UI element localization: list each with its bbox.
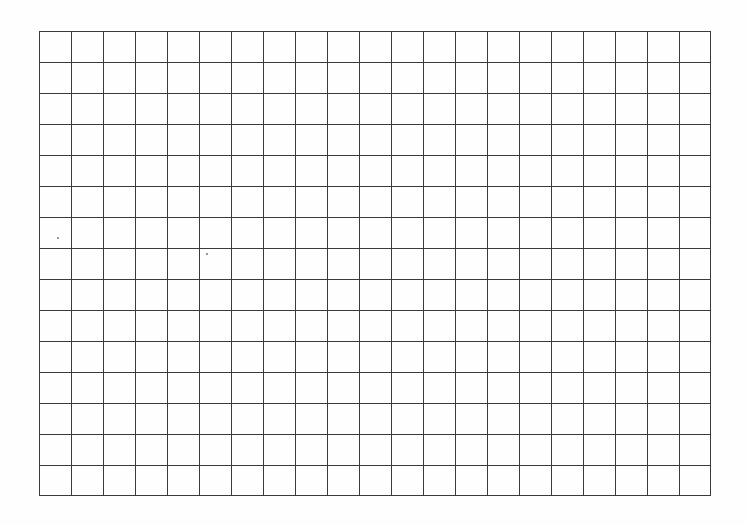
grid-cell bbox=[199, 31, 231, 62]
grid-cell bbox=[71, 310, 103, 341]
grid-cell bbox=[583, 186, 615, 217]
grid-cell bbox=[583, 310, 615, 341]
grid-cell bbox=[391, 310, 423, 341]
grid-cell bbox=[199, 248, 231, 279]
grid-cell bbox=[39, 93, 71, 124]
grid-cell bbox=[103, 155, 135, 186]
grid-cell bbox=[103, 372, 135, 403]
grid-cell bbox=[455, 186, 487, 217]
grid-cell bbox=[263, 310, 295, 341]
grid-cell bbox=[359, 372, 391, 403]
grid-cell bbox=[615, 124, 647, 155]
grid-cell bbox=[295, 155, 327, 186]
grid-cell bbox=[583, 434, 615, 465]
grid-cell bbox=[615, 186, 647, 217]
grid-cell bbox=[487, 155, 519, 186]
grid-cell bbox=[519, 248, 551, 279]
grid-cell bbox=[583, 465, 615, 496]
grid-cell bbox=[199, 372, 231, 403]
grid-cell bbox=[71, 248, 103, 279]
grid-cell bbox=[231, 403, 263, 434]
grid-cell bbox=[423, 155, 455, 186]
grid-cell bbox=[647, 186, 679, 217]
grid-cell bbox=[359, 465, 391, 496]
grid-cell bbox=[167, 217, 199, 248]
grid-cell bbox=[71, 403, 103, 434]
grid-cell bbox=[167, 310, 199, 341]
grid-cell bbox=[231, 31, 263, 62]
grid-cell bbox=[263, 124, 295, 155]
grid-cell bbox=[359, 186, 391, 217]
grid-cell bbox=[551, 310, 583, 341]
grid-cell bbox=[231, 465, 263, 496]
grid-cell bbox=[71, 279, 103, 310]
grid-cell bbox=[167, 279, 199, 310]
grid-cell bbox=[103, 62, 135, 93]
grid-cell bbox=[455, 93, 487, 124]
grid-cell bbox=[455, 217, 487, 248]
grid-cell bbox=[583, 279, 615, 310]
grid-cell bbox=[327, 434, 359, 465]
grid-cell bbox=[167, 186, 199, 217]
grid-cell bbox=[391, 155, 423, 186]
grid-cell bbox=[71, 465, 103, 496]
grid-cell bbox=[519, 310, 551, 341]
grid-cell bbox=[359, 341, 391, 372]
grid-cell bbox=[359, 248, 391, 279]
grid-cell bbox=[487, 372, 519, 403]
grid-cell bbox=[551, 465, 583, 496]
grid-cell bbox=[551, 186, 583, 217]
grid-cell bbox=[423, 186, 455, 217]
grid-cell bbox=[487, 403, 519, 434]
grid-cell bbox=[327, 62, 359, 93]
grid-cell bbox=[135, 155, 167, 186]
grid-cell bbox=[231, 310, 263, 341]
grid-cell bbox=[167, 403, 199, 434]
grid-cell bbox=[359, 279, 391, 310]
grid-cell bbox=[39, 465, 71, 496]
grid-cell bbox=[71, 62, 103, 93]
grid-cell bbox=[327, 217, 359, 248]
grid-cell bbox=[583, 62, 615, 93]
grid-cell bbox=[455, 62, 487, 93]
grid-cell bbox=[519, 434, 551, 465]
grid-cell bbox=[199, 434, 231, 465]
grid-cell bbox=[519, 124, 551, 155]
grid-cell bbox=[167, 155, 199, 186]
grid-cell bbox=[71, 124, 103, 155]
grid-cell bbox=[359, 434, 391, 465]
grid-cell bbox=[231, 124, 263, 155]
grid-cell bbox=[583, 403, 615, 434]
grid-cell bbox=[135, 217, 167, 248]
grid-cell bbox=[103, 465, 135, 496]
grid-cell bbox=[647, 279, 679, 310]
grid-cell bbox=[167, 31, 199, 62]
grid-cell bbox=[551, 372, 583, 403]
grid-cell bbox=[679, 434, 711, 465]
grid-cell bbox=[647, 310, 679, 341]
grid-cell bbox=[519, 93, 551, 124]
grid-cell bbox=[103, 341, 135, 372]
grid-cell bbox=[295, 31, 327, 62]
grid-cell bbox=[423, 372, 455, 403]
grid-cell bbox=[551, 62, 583, 93]
grid-cell bbox=[647, 372, 679, 403]
grid-cell bbox=[423, 341, 455, 372]
grid-cell bbox=[39, 186, 71, 217]
grid-cell bbox=[327, 372, 359, 403]
grid-cell bbox=[423, 124, 455, 155]
grid-cell bbox=[391, 465, 423, 496]
grid-cell bbox=[135, 124, 167, 155]
grid-cell bbox=[71, 93, 103, 124]
grid-cell bbox=[39, 124, 71, 155]
grid-cell bbox=[519, 155, 551, 186]
grid-cell bbox=[263, 341, 295, 372]
grid-cell bbox=[167, 434, 199, 465]
grid-cell bbox=[103, 279, 135, 310]
grid-cell bbox=[295, 310, 327, 341]
grid-cell bbox=[231, 155, 263, 186]
grid-cell bbox=[199, 93, 231, 124]
grid-cell bbox=[487, 93, 519, 124]
grid-cell bbox=[135, 93, 167, 124]
grid-cell bbox=[263, 434, 295, 465]
